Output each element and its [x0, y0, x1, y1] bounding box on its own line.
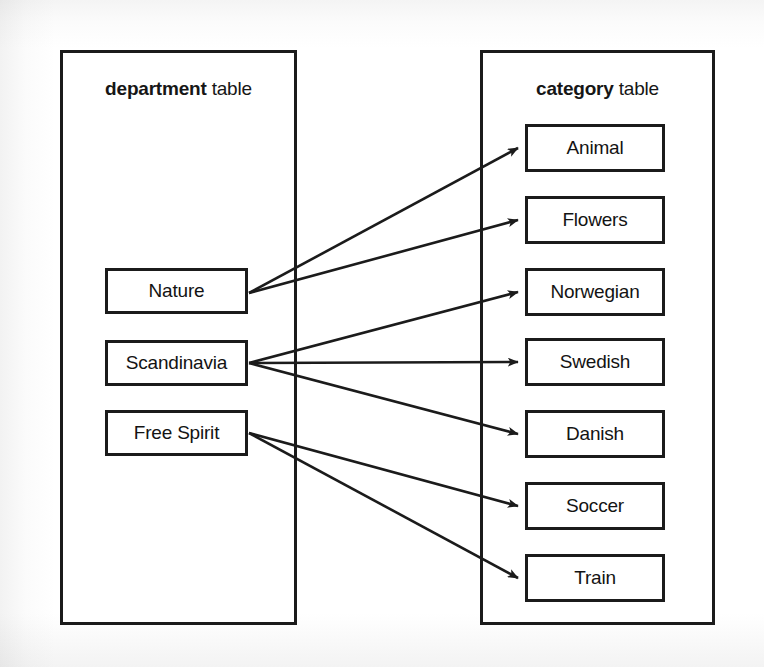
category-title-word: table	[619, 78, 659, 99]
diagram-canvas: department table category table Nature S…	[0, 0, 764, 667]
department-row-nature-label: Nature	[149, 280, 205, 302]
category-row-swedish[interactable]: Swedish	[525, 338, 665, 386]
category-table-title: category table	[480, 78, 715, 100]
category-row-swedish-label: Swedish	[560, 351, 630, 373]
category-row-animal[interactable]: Animal	[525, 124, 665, 172]
category-row-danish-label: Danish	[566, 423, 624, 445]
department-table-title: department table	[60, 78, 297, 100]
category-row-norwegian-label: Norwegian	[550, 281, 639, 303]
category-row-norwegian[interactable]: Norwegian	[525, 268, 665, 316]
department-title-name: department	[105, 78, 206, 99]
category-row-train[interactable]: Train	[525, 554, 665, 602]
category-row-flowers[interactable]: Flowers	[525, 196, 665, 244]
category-row-animal-label: Animal	[567, 137, 624, 159]
category-row-soccer-label: Soccer	[566, 495, 624, 517]
department-row-scandinavia[interactable]: Scandinavia	[105, 340, 248, 386]
department-row-free-spirit[interactable]: Free Spirit	[105, 410, 248, 456]
category-row-flowers-label: Flowers	[562, 209, 627, 231]
department-table-container	[60, 50, 297, 625]
department-row-scandinavia-label: Scandinavia	[126, 352, 227, 374]
department-row-free-spirit-label: Free Spirit	[134, 422, 219, 444]
department-row-nature[interactable]: Nature	[105, 268, 248, 314]
category-row-train-label: Train	[574, 567, 616, 589]
category-row-soccer[interactable]: Soccer	[525, 482, 665, 530]
category-title-name: category	[536, 78, 614, 99]
category-row-danish[interactable]: Danish	[525, 410, 665, 458]
department-title-word: table	[212, 78, 252, 99]
